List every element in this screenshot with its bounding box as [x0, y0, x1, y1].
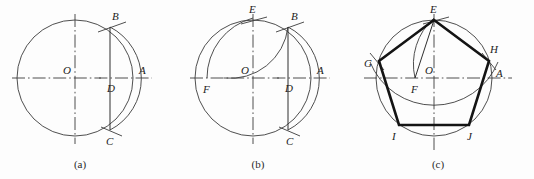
figure-root: O A B C D (a) O A B	[0, 0, 534, 179]
label-A: A	[316, 64, 324, 76]
label-A: A	[138, 64, 146, 76]
label-G: G	[364, 57, 372, 69]
panel-a-geometry	[12, 14, 152, 144]
panel-a: O A B C D (a)	[0, 0, 178, 179]
label-D: D	[106, 82, 115, 94]
arc-D-to-F	[224, 27, 288, 78]
arc-centred-at-D	[110, 27, 141, 130]
caption-panel-b: (b)	[252, 158, 265, 171]
label-F: F	[202, 83, 210, 95]
label-E: E	[248, 3, 256, 15]
label-J: J	[467, 130, 473, 142]
panel-b-geometry	[190, 14, 330, 144]
caption-panel-a: (a)	[74, 158, 87, 171]
panel-c-labels: O A E F G H I J	[364, 3, 503, 142]
label-O: O	[63, 64, 71, 76]
panel-c: O A E F G H I J (c)	[356, 0, 534, 179]
label-C: C	[286, 135, 294, 147]
label-O: O	[425, 64, 433, 76]
arc-centred-at-D	[288, 27, 319, 130]
label-O: O	[241, 64, 249, 76]
panel-c-geometry	[364, 14, 512, 150]
label-H: H	[489, 43, 499, 55]
label-B: B	[112, 10, 119, 22]
caption-panel-c: (c)	[432, 158, 445, 171]
label-F: F	[410, 83, 418, 95]
label-I: I	[391, 130, 397, 142]
label-A: A	[495, 67, 503, 79]
label-E: E	[429, 3, 437, 15]
label-B: B	[291, 10, 298, 22]
label-D: D	[284, 82, 293, 94]
panel-b: O A B C D E F (b)	[178, 0, 356, 179]
label-C: C	[106, 135, 114, 147]
